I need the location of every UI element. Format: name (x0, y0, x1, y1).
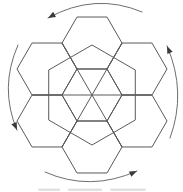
diagram-canvas (0, 0, 183, 191)
hexagon-rotation-diagram (0, 0, 183, 191)
arrowhead-icon-bottom-arrow (129, 171, 137, 177)
rotation-arc-right-arrow (167, 46, 178, 138)
cropped-caption-remnant-3 (110, 189, 146, 192)
ring-hexagon-5 (17, 95, 77, 147)
ring-hexagon-1 (62, 17, 122, 69)
rotation-arc-top-arrow (48, 3, 142, 18)
arrowhead-icon-top-arrow (48, 12, 56, 18)
cropped-caption-remnant-1 (38, 189, 60, 192)
ring-hexagon-3 (107, 95, 167, 147)
arrowhead-icon-right-arrow (167, 46, 173, 54)
ring-hexagon-6 (17, 43, 77, 95)
rotation-arc-left-arrow (8, 45, 18, 130)
ring-hexagon-4 (62, 121, 122, 173)
cropped-caption-remnant-2 (68, 189, 102, 192)
ring-hexagon-2 (107, 43, 167, 95)
arrowhead-icon-left-arrow (11, 122, 17, 130)
